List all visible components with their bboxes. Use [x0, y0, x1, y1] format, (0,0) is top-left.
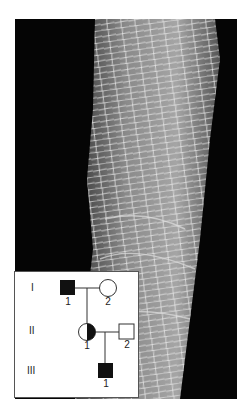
- affected-male-symbol: [98, 363, 113, 378]
- individual-label: 1: [80, 340, 94, 351]
- affected-male-symbol: [60, 280, 75, 295]
- unaffected-male-symbol: [119, 324, 134, 339]
- individual-label: 1: [61, 296, 75, 307]
- generation-label: II: [29, 325, 35, 336]
- individual-label: 1: [99, 378, 113, 389]
- individual-label: 2: [101, 296, 115, 307]
- generation-label: III: [27, 365, 35, 376]
- pedigree-chart: I II III 1 2 1 2 1: [14, 271, 139, 398]
- generation-label: I: [31, 282, 34, 293]
- unaffected-female-symbol: [100, 280, 117, 297]
- carrier-female-symbol: [79, 324, 96, 341]
- individual-label: 2: [120, 339, 134, 350]
